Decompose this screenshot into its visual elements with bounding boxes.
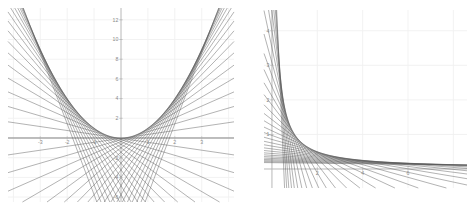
tangent-line bbox=[264, 155, 467, 167]
y-tick-label: 3 bbox=[266, 62, 269, 68]
x-tick-label: 2 bbox=[316, 170, 319, 176]
y-tick-label: 2 bbox=[266, 97, 269, 103]
tangent-line bbox=[264, 153, 467, 169]
y-tick-label: 1 bbox=[266, 131, 269, 137]
figure-container: -3-2-1123-6-4-224681012 2461234 bbox=[0, 0, 473, 210]
tangent-line bbox=[111, 8, 231, 202]
tangent-line bbox=[21, 8, 109, 202]
tangent-line bbox=[64, 53, 234, 202]
x-tick-label: -1 bbox=[92, 139, 97, 145]
parabola-envelope-plot: -3-2-1123-6-4-224681012 bbox=[0, 0, 240, 210]
tangent-line bbox=[77, 41, 234, 202]
y-tick-label: -4 bbox=[114, 174, 119, 180]
tangent-line bbox=[88, 31, 234, 202]
x-tick-label: -2 bbox=[65, 139, 70, 145]
chart-panel-hyperbola-envelope: 2461234 bbox=[250, 0, 473, 210]
y-tick-label: 6 bbox=[116, 76, 119, 82]
hyperbola-envelope-plot: 2461234 bbox=[250, 0, 473, 210]
y-tick-label: 2 bbox=[116, 115, 119, 121]
tangent-line bbox=[104, 12, 234, 202]
tangent-line bbox=[141, 8, 219, 202]
tangent-line bbox=[47, 65, 234, 202]
tangent-line bbox=[264, 53, 312, 188]
x-tick-label: 1 bbox=[146, 139, 149, 145]
tangent-line bbox=[264, 121, 376, 188]
tangent-line bbox=[145, 8, 219, 202]
chart-panel-parabola-envelope: -3-2-1123-6-4-224681012 bbox=[0, 0, 240, 210]
y-tick-label: 8 bbox=[116, 56, 119, 62]
axes bbox=[8, 8, 234, 202]
tangent-line bbox=[122, 8, 224, 202]
y-tick-label: 4 bbox=[116, 95, 119, 101]
tangent-line bbox=[8, 65, 195, 202]
x-tick-label: 2 bbox=[173, 139, 176, 145]
y-tick-label: 10 bbox=[113, 36, 119, 42]
x-tick-label: 4 bbox=[361, 170, 364, 176]
y-tick-label: -2 bbox=[114, 155, 119, 161]
tangent-line bbox=[18, 8, 120, 202]
tangent-line bbox=[117, 8, 227, 202]
x-tick-label: 3 bbox=[200, 139, 203, 145]
y-tick-label: 12 bbox=[113, 17, 119, 23]
x-tick-label: -3 bbox=[38, 139, 43, 145]
tangent-line-family bbox=[264, 10, 467, 188]
y-tick-label: 4 bbox=[266, 28, 269, 34]
x-tick-label: 6 bbox=[407, 170, 410, 176]
y-tick-label: -6 bbox=[114, 194, 119, 200]
